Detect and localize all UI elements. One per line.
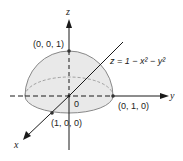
point-top-label: (0, 0, 1) [33,39,64,49]
point-top [67,49,71,53]
point-y-intercept-label: (0, 1, 0) [118,101,149,111]
point-x-intercept-label: (1, 0, 0) [51,118,82,128]
point-origin [68,95,71,98]
point-x-intercept [50,111,54,115]
point-y-intercept [111,94,115,98]
origin-label: 0 [74,99,79,109]
surface-equation-label: z = 1 − x² − y² [109,56,166,66]
x-axis-arrow-icon [23,131,31,140]
y-axis-label: y [169,90,175,101]
y-axis-arrow-icon [160,93,169,99]
x-axis-label: x [13,139,19,150]
z-axis-arrow-icon [66,19,72,28]
z-axis-label: z [65,6,70,17]
diagram-canvas: z y x 0 (0, 0, 1) (0, 1, 0) (1, 0, 0) z … [0,0,183,161]
